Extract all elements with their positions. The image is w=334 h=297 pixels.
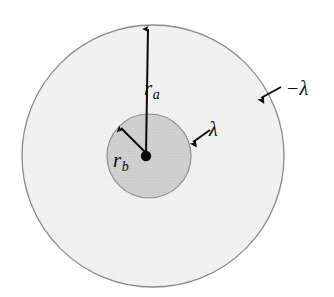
figure-canvas: ra rb λ −λ	[0, 0, 334, 297]
radius-a-symbol: r	[144, 76, 152, 100]
radius-a-label: ra	[144, 78, 160, 102]
negative-lambda-label: −λ	[286, 78, 308, 98]
axis-center-dot	[141, 151, 151, 161]
diagram-svg	[0, 0, 334, 297]
radius-a-subscript: a	[153, 87, 160, 102]
radius-b-subscript: b	[122, 159, 129, 174]
radius-b-label: rb	[113, 150, 129, 174]
radius-b-symbol: r	[113, 148, 121, 172]
lambda-label: λ	[209, 119, 218, 139]
